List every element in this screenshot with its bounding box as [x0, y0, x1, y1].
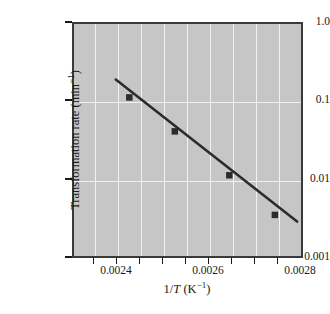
- figure-container: 1.0 0.1 0.01 0.001 0.0024 0.0026 0.0028 …: [0, 0, 330, 314]
- y-axis-tick-label: 0.1: [266, 94, 330, 106]
- data-point-marker: [272, 212, 278, 218]
- data-point-marker: [126, 94, 132, 100]
- data-point-marker: [226, 172, 232, 178]
- y-axis-tick-label: 0.01: [266, 173, 330, 185]
- data-point-marker: [172, 128, 178, 134]
- y-axis-title-text: Transformation rate (min: [68, 84, 82, 210]
- y-axis-tick-label: 0.001: [266, 251, 330, 263]
- y-axis-title-suffix: ): [68, 70, 82, 74]
- x-axis-title-exponent: −1: [197, 280, 207, 290]
- data-series-plot: [74, 24, 301, 256]
- y-axis-tick-label: 1.0: [266, 16, 330, 28]
- x-axis-tick-label: 0.0024: [100, 265, 132, 277]
- x-axis-title: 1/T (K−1): [164, 282, 211, 297]
- x-axis-tick: [277, 258, 278, 264]
- x-axis-title-suffix: ): [206, 282, 210, 296]
- x-axis-title-unit: (K: [180, 282, 196, 296]
- plot-area: [72, 22, 303, 258]
- x-axis-tick: [185, 258, 186, 264]
- x-axis-tick-label: 0.0026: [192, 265, 224, 277]
- y-axis-title-exponent: −1: [66, 74, 76, 84]
- y-axis-tick: [65, 21, 72, 23]
- x-axis-tick: [162, 258, 163, 264]
- x-axis-tick: [231, 258, 232, 264]
- x-axis-tick: [93, 258, 94, 264]
- x-axis-tick: [139, 258, 140, 264]
- x-axis-title-variable: T: [173, 282, 180, 296]
- x-axis-tick-label: 0.0028: [284, 265, 316, 277]
- x-axis-title-prefix: 1/: [164, 282, 174, 296]
- y-axis-title: Transformation rate (min−1): [68, 70, 83, 210]
- x-axis-tick: [254, 258, 255, 264]
- y-axis-tick: [65, 256, 72, 258]
